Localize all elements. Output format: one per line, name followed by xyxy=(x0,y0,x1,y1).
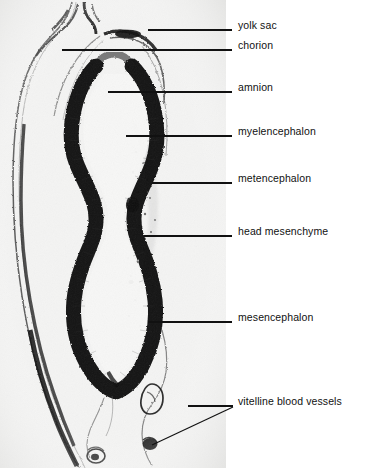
label-chorion: chorion xyxy=(238,40,273,51)
vignette xyxy=(0,0,226,468)
micrograph-image xyxy=(0,0,226,468)
figure-panel: yolk sac chorion amnion myelencephalon m… xyxy=(0,0,368,468)
label-head-mesenchyme: head mesenchyme xyxy=(238,226,328,237)
label-yolk-sac: yolk sac xyxy=(238,20,277,31)
label-metencephalon: metencephalon xyxy=(238,173,311,184)
label-mesencephalon: mesencephalon xyxy=(238,312,313,323)
micrograph-svg xyxy=(0,0,226,468)
label-myelencephalon: myelencephalon xyxy=(238,126,316,137)
label-amnion: amnion xyxy=(238,82,273,93)
label-vitelline-blood-vessels: vitelline blood vessels xyxy=(238,396,342,407)
